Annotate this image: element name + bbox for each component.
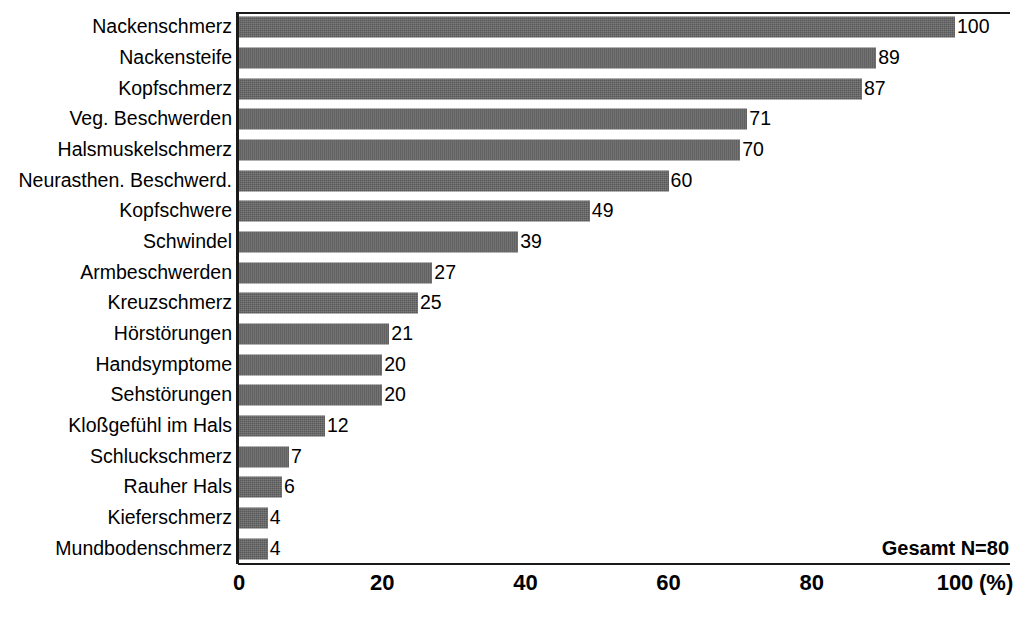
bar-row: Schwindel39 xyxy=(0,227,1023,258)
bar-row: Sehstörungen20 xyxy=(0,380,1023,411)
bar-row: Rauher Hals6 xyxy=(0,472,1023,503)
bar xyxy=(239,47,876,68)
bar-value-label: 7 xyxy=(289,447,302,467)
bar-fill xyxy=(239,415,325,436)
bar-row: Kopfschwere49 xyxy=(0,196,1023,227)
x-axis-unit-label: (%) xyxy=(979,572,1013,594)
bar-fill xyxy=(239,446,289,467)
x-tick-label: 60 xyxy=(656,572,680,594)
category-label: Nackenschmerz xyxy=(92,18,232,38)
bar-fill xyxy=(239,507,268,528)
bar-fill xyxy=(239,139,740,160)
bar xyxy=(239,323,389,344)
bar-fill xyxy=(239,323,389,344)
bar-row: Kopfschmerz87 xyxy=(0,73,1023,104)
bar-chart: Nackenschmerz100Nackensteife89Kopfschmer… xyxy=(0,0,1023,618)
bar-row: Nackensteife89 xyxy=(0,43,1023,74)
chart-title-cropped xyxy=(0,0,1023,9)
bar-fill xyxy=(239,385,382,406)
bar-value-label: 21 xyxy=(389,324,413,344)
bar-value-label: 49 xyxy=(590,202,614,222)
bar-value-label: 71 xyxy=(747,110,771,130)
bar-value-label: 87 xyxy=(862,79,886,99)
bar-value-label: 70 xyxy=(740,140,764,160)
bar-row: Hörstörungen21 xyxy=(0,319,1023,350)
bar xyxy=(239,78,862,99)
category-label: Schluckschmerz xyxy=(90,447,232,467)
bar xyxy=(239,139,740,160)
bar xyxy=(239,17,955,38)
bar-row: Handsymptome20 xyxy=(0,349,1023,380)
category-label: Schwindel xyxy=(143,232,232,252)
bar-row: Schluckschmerz7 xyxy=(0,441,1023,472)
category-label: Kopfschwere xyxy=(119,202,232,222)
bar-row: Neurasthen. Beschwerd.60 xyxy=(0,165,1023,196)
bar xyxy=(239,477,282,498)
bar xyxy=(239,354,382,375)
x-tick-label: 40 xyxy=(513,572,537,594)
x-tick-label: 20 xyxy=(370,572,394,594)
category-label: Rauher Hals xyxy=(124,478,232,498)
category-label: Veg. Beschwerden xyxy=(69,110,232,130)
bar-row: Veg. Beschwerden71 xyxy=(0,104,1023,135)
bar-value-label: 89 xyxy=(876,48,900,68)
bar xyxy=(239,385,382,406)
category-label: Kreuzschmerz xyxy=(107,294,232,314)
bar-row: Kieferschmerz4 xyxy=(0,503,1023,534)
bar-row: Kreuzschmerz25 xyxy=(0,288,1023,319)
bar-fill xyxy=(239,231,518,252)
category-label: Handsymptome xyxy=(95,355,232,375)
bar-fill xyxy=(239,109,747,130)
bar-value-label: 20 xyxy=(382,386,406,406)
bar-row: Kloßgefühl im Hals12 xyxy=(0,411,1023,442)
bar xyxy=(239,446,289,467)
bar-fill xyxy=(239,293,418,314)
bar xyxy=(239,201,590,222)
bar xyxy=(239,293,418,314)
bar-fill xyxy=(239,262,432,283)
bar-fill xyxy=(239,538,268,559)
bar-value-label: 4 xyxy=(268,508,281,528)
bar-fill xyxy=(239,17,955,38)
x-tick-label: 0 xyxy=(233,572,245,594)
bar xyxy=(239,231,518,252)
bar xyxy=(239,415,325,436)
bar-value-label: 27 xyxy=(432,263,456,283)
bar-row: Armbeschwerden27 xyxy=(0,257,1023,288)
bar xyxy=(239,109,747,130)
bar xyxy=(239,170,669,191)
bar xyxy=(239,262,432,283)
bar-value-label: 25 xyxy=(418,294,442,314)
x-axis-ticks: 020406080100(%) xyxy=(0,572,1023,606)
category-label: Neurasthen. Beschwerd. xyxy=(18,171,232,191)
category-label: Kloßgefühl im Hals xyxy=(68,416,232,436)
x-tick-label: 80 xyxy=(800,572,824,594)
category-label: Halsmuskelschmerz xyxy=(58,140,232,160)
total-n-annotation: Gesamt N=80 xyxy=(882,538,1009,558)
bar-value-label: 12 xyxy=(325,416,349,436)
bar-fill xyxy=(239,477,282,498)
bar-fill xyxy=(239,47,876,68)
category-label: Kopfschmerz xyxy=(118,79,232,99)
bar-row: Nackenschmerz100 xyxy=(0,12,1023,43)
bar-value-label: 60 xyxy=(669,171,693,191)
bar-row: Halsmuskelschmerz70 xyxy=(0,135,1023,166)
bar-value-label: 4 xyxy=(268,539,281,559)
category-label: Mundbodenschmerz xyxy=(55,539,232,559)
category-label: Nackensteife xyxy=(119,48,232,68)
bar-row: Mundbodenschmerz4 xyxy=(0,533,1023,564)
bar-value-label: 39 xyxy=(518,232,542,252)
bar xyxy=(239,507,268,528)
bar-rows: Nackenschmerz100Nackensteife89Kopfschmer… xyxy=(0,12,1023,564)
bar xyxy=(239,538,268,559)
bar-value-label: 6 xyxy=(282,478,295,498)
category-label: Hörstörungen xyxy=(114,324,232,344)
bar-fill xyxy=(239,354,382,375)
bar-fill xyxy=(239,201,590,222)
category-label: Sehstörungen xyxy=(111,386,232,406)
bar-value-label: 100 xyxy=(955,18,990,38)
category-label: Kieferschmerz xyxy=(107,508,232,528)
bar-fill xyxy=(239,78,862,99)
category-label: Armbeschwerden xyxy=(80,263,232,283)
x-tick-label: 100 xyxy=(937,572,974,594)
